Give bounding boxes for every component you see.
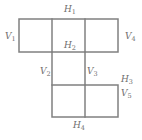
edge-label-v1-base: V [5,31,12,41]
edge-label-v4-sub: 4 [132,35,136,43]
edge-label-h1-base: H [64,4,72,14]
edge-label-h1-sub: 1 [72,8,76,16]
edge-label-h2-base: H [64,40,72,50]
edge-label-h2: H2 [64,41,76,50]
edge-label-v4-base: V [125,31,132,41]
edge-label-h4-sub: 4 [81,124,85,132]
edge-label-v2: V2 [40,67,51,76]
edge-label-h4: H4 [73,121,85,130]
edge-label-v2-base: V [40,66,47,76]
edge-label-v4: V4 [125,32,136,41]
edge-label-h1: H1 [64,5,76,14]
edge-label-v2-sub: 2 [47,70,51,78]
edge-label-h2-sub: 2 [72,44,76,52]
diagram-strokes [19,19,118,117]
edge-label-v1: V1 [5,32,16,41]
edge-label-v1-sub: 1 [12,35,16,43]
edge-label-v3-sub: 3 [94,70,98,78]
edge-label-v5-base: V [121,88,128,98]
edge-label-v5-sub: 5 [128,92,132,100]
edge-label-v3: V3 [87,67,98,76]
diagram-canvas [0,0,142,140]
edge-label-h3-sub: 3 [129,78,133,86]
edge-label-h3-base: H [121,74,129,84]
edge-label-v3-base: V [87,66,94,76]
edge-label-v5: V5 [121,89,132,98]
edge-label-h4-base: H [73,120,81,130]
labeled-polyomino-diagram: H1 H2 H3 H4 V1 V2 V3 V4 V5 [0,0,142,140]
edge-label-h3: H3 [121,75,133,84]
